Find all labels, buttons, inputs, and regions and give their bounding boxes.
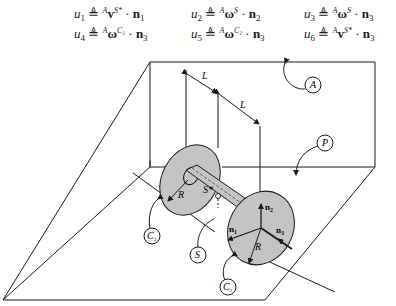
label-L-2: L xyxy=(239,99,246,110)
callout-P-leader xyxy=(296,146,318,175)
mass-center-point xyxy=(216,194,221,199)
label-P: P xyxy=(321,137,328,148)
callout-C2-leader xyxy=(149,199,158,228)
label-S-star: S* xyxy=(203,184,213,195)
callout-A-leader xyxy=(284,63,305,89)
callout-C1-leader xyxy=(223,256,232,280)
label-A: A xyxy=(309,79,317,90)
mechanism-diagram: L L A P R S* R n2 n1 n3 C2 S C1 xyxy=(0,0,396,306)
label-L-1: L xyxy=(201,70,208,81)
label-S: S xyxy=(195,249,200,260)
dimension-L-2 xyxy=(219,94,259,124)
label-R-left: R xyxy=(177,189,184,200)
label-R-right: R xyxy=(254,241,261,252)
callout-S-leader xyxy=(198,219,214,247)
